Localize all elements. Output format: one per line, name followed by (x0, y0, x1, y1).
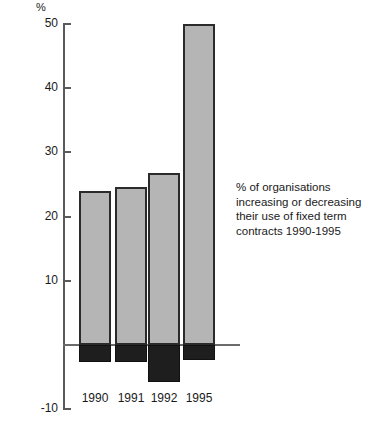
bar-negative-1992 (148, 345, 180, 382)
caption-line-2: increasing or decreasing (236, 195, 368, 210)
bar-chart: % 5040302010-10 1990199119921995 % of or… (0, 0, 369, 421)
x-axis-label-1995: 1995 (179, 391, 219, 405)
bar-positive-1990 (79, 191, 111, 345)
bar-negative-1990 (79, 345, 111, 362)
bar-positive-1991 (115, 187, 147, 345)
chart-caption: % of organisations increasing or decreas… (236, 180, 368, 238)
bar-negative-1995 (183, 345, 215, 360)
bar-negative-1991 (115, 345, 147, 362)
bar-positive-1992 (148, 173, 180, 345)
x-axis-label-1992: 1992 (144, 391, 184, 405)
caption-line-3: their use of fixed term (236, 209, 368, 224)
caption-line-1: % of organisations (236, 180, 368, 195)
bar-positive-1995 (183, 24, 215, 345)
caption-line-4: contracts 1990-1995 (236, 224, 368, 239)
x-axis-label-1990: 1990 (75, 391, 115, 405)
